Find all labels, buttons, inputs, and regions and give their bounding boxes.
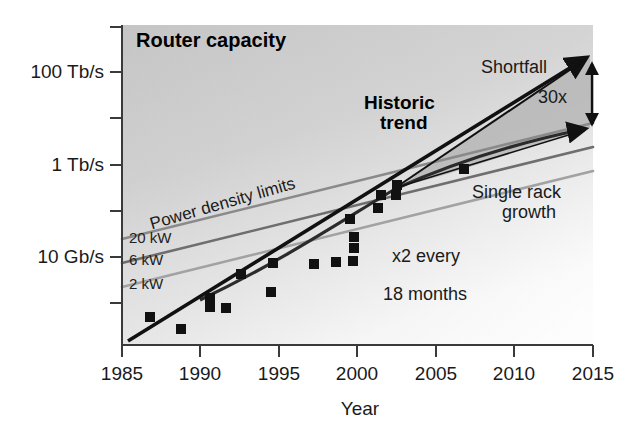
chart-title: Router capacity (136, 30, 286, 51)
x-axis-title: Year (300, 399, 420, 419)
x-tick-label-1990: 1990 (170, 364, 230, 384)
single-rack-growth-label-line1: Single rack (472, 183, 561, 202)
x-tick-label-2000: 2000 (327, 364, 387, 384)
y-tick-label-1tbs: 1 Tb/s (0, 155, 104, 175)
shortfall-label: Shortfall (481, 58, 547, 77)
limit-label-20kw: 20 kW (129, 230, 172, 246)
x-tick-label-1985: 1985 (92, 364, 152, 384)
doubling-rate-label-line1: x2 every (392, 247, 460, 266)
limit-label-2kw: 2 kW (129, 276, 163, 292)
doubling-rate-label-line2: 18 months (383, 285, 467, 304)
single-rack-growth-label-line2: growth (502, 203, 556, 222)
x-tick-label-2010: 2010 (484, 364, 544, 384)
historic-trend-label-line1: Historic (364, 93, 435, 113)
historic-trend-label-line2: trend (380, 113, 428, 133)
router-capacity-figure: Router capacity Historic trend Power den… (0, 0, 640, 438)
x-tick-label-2005: 2005 (406, 364, 466, 384)
x-tick-label-1995: 1995 (249, 364, 309, 384)
limit-label-6kw: 6 kW (129, 252, 163, 268)
y-tick-label-10gbs: 10 Gb/s (0, 247, 104, 267)
shortfall-gap-label: 30x (538, 88, 567, 107)
x-tick-label-2015: 2015 (563, 364, 623, 384)
y-tick-label-100tbs: 100 Tb/s (0, 62, 104, 82)
